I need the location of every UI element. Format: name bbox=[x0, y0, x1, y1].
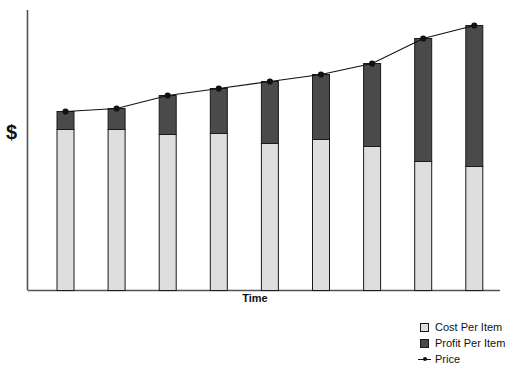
price-data-point bbox=[369, 60, 375, 66]
price-data-point bbox=[165, 92, 171, 98]
figure-caption bbox=[28, 374, 508, 383]
chart-legend: Cost Per Item Profit Per Item Price bbox=[420, 320, 526, 368]
bars-group bbox=[57, 26, 483, 291]
bar-segment-cost bbox=[466, 167, 483, 291]
bar-segment-profit bbox=[364, 64, 381, 147]
price-data-point bbox=[267, 78, 273, 84]
legend-label-profit: Profit Per Item bbox=[435, 337, 505, 349]
bar-segment-profit bbox=[159, 96, 176, 135]
price-data-point bbox=[420, 35, 426, 41]
bar-segment-cost bbox=[415, 162, 432, 291]
bar-segment-profit bbox=[210, 89, 227, 134]
bar-segment-cost bbox=[57, 130, 74, 291]
bar-segment-profit bbox=[108, 109, 125, 130]
bar-segment-profit bbox=[261, 82, 278, 144]
legend-item-price: Price bbox=[420, 352, 526, 366]
x-axis-label: Time bbox=[0, 292, 526, 304]
legend-label-price: Price bbox=[435, 353, 460, 365]
bar-segment-cost bbox=[159, 135, 176, 291]
bar-segment-cost bbox=[261, 144, 278, 291]
bar-segment-profit bbox=[466, 26, 483, 167]
price-data-point bbox=[62, 108, 68, 114]
bar-segment-profit bbox=[415, 39, 432, 162]
legend-line-marker-icon bbox=[420, 355, 429, 364]
price-data-point bbox=[471, 22, 477, 28]
legend-item-cost: Cost Per Item bbox=[420, 320, 526, 334]
bar-segment-cost bbox=[210, 134, 227, 291]
bar-segment-cost bbox=[313, 140, 330, 291]
x-axis-label-text: Time bbox=[242, 292, 267, 304]
price-data-point bbox=[216, 85, 222, 91]
bar-segment-cost bbox=[364, 147, 381, 291]
price-data-point bbox=[114, 105, 120, 111]
figure-container: $ Time Cost Per Item Profit Per Item Pri… bbox=[0, 0, 526, 383]
bar-segment-cost bbox=[108, 130, 125, 291]
y-axis-label: $ bbox=[6, 121, 17, 144]
legend-item-profit: Profit Per Item bbox=[420, 336, 526, 350]
legend-swatch-profit-icon bbox=[420, 339, 429, 348]
price-data-point bbox=[318, 71, 324, 77]
bar-segment-profit bbox=[313, 75, 330, 140]
legend-swatch-cost-icon bbox=[420, 323, 429, 332]
legend-label-cost: Cost Per Item bbox=[435, 321, 502, 333]
